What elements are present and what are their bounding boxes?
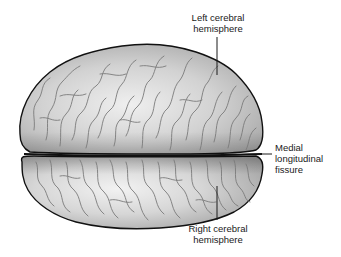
label-line: hemisphere — [178, 23, 258, 34]
label-line: Right cerebral — [176, 223, 260, 234]
label-line: hemisphere — [176, 234, 260, 245]
brain-diagram: Left cerebral hemisphere Medial longitud… — [0, 0, 341, 257]
label-line: Medial — [275, 142, 341, 153]
label-line: Left cerebral — [178, 12, 258, 23]
right-hemisphere — [22, 156, 263, 229]
label-right-cerebral-hemisphere: Right cerebral hemisphere — [176, 223, 260, 245]
label-left-cerebral-hemisphere: Left cerebral hemisphere — [178, 12, 258, 34]
label-line: longitudinal — [275, 153, 341, 164]
left-hemisphere — [20, 44, 263, 154]
brain-illustration — [0, 0, 341, 257]
label-line: fissure — [275, 164, 341, 175]
label-medial-longitudinal-fissure: Medial longitudinal fissure — [275, 142, 341, 175]
